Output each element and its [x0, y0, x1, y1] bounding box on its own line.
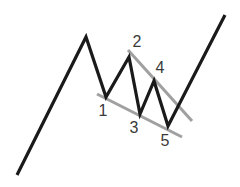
falling-wedge-diagram — [0, 0, 240, 187]
price-path — [17, 15, 225, 175]
wave-label-2: 2 — [133, 34, 142, 50]
wave-label-4: 4 — [156, 60, 165, 76]
wave-label-1: 1 — [99, 103, 108, 119]
wave-label-5: 5 — [161, 133, 170, 149]
wave-label-3: 3 — [130, 120, 139, 136]
